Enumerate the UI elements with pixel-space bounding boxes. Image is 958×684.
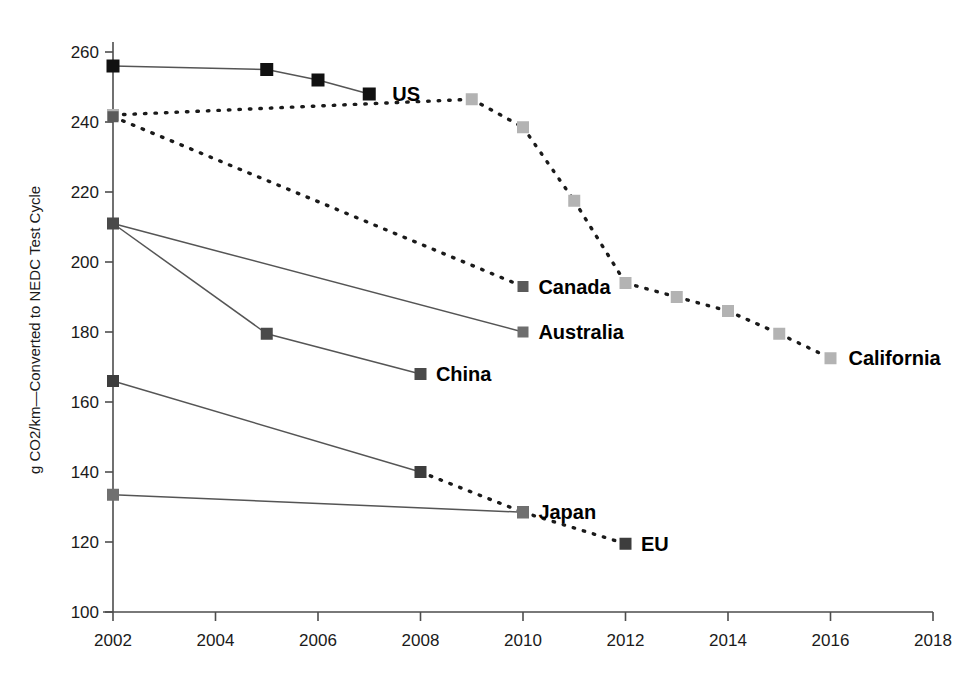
series-marker-california [722,305,734,317]
series-segment-australia [113,224,523,333]
x-axis-tick-label: 2016 [812,631,850,650]
series-marker-canada [518,281,529,292]
series-marker-california [620,277,632,289]
series-marker-us [260,63,273,76]
series-label-japan: Japan [538,501,596,523]
x-axis-tick-label: 2010 [504,631,542,650]
y-axis-tick-label: 180 [71,323,99,342]
series-segment-us [318,80,369,94]
series-marker-california [773,328,785,340]
series-marker-california [568,195,580,207]
series-marker-us [312,74,325,87]
series-marker-australia [518,327,529,338]
x-axis-tick-label: 2002 [94,631,132,650]
x-axis-tick-label: 2004 [197,631,235,650]
y-axis-title: g CO2/km—Converted to NEDC Test Cycle [26,186,43,474]
series-marker-canada [108,111,119,122]
series-marker-california [825,352,837,364]
series-marker-eu [415,466,427,478]
x-axis-tick-label: 2006 [299,631,337,650]
y-axis-tick-label: 220 [71,183,99,202]
x-axis-tick-label: 2018 [914,631,952,650]
series-segment-california [728,311,779,334]
y-axis-tick-label: 200 [71,253,99,272]
y-axis-tick-label: 260 [71,43,99,62]
series-marker-japan [517,506,529,518]
series-segment-us [113,66,267,70]
series-label-us: US [392,83,420,105]
series-segment-california [779,334,830,359]
series-lines [113,66,831,544]
series-label-china: China [436,363,492,385]
x-axis-tick-label: 2014 [709,631,747,650]
series-marker-china [415,368,427,380]
x-axis: 200220042006200820102012201420162018 [94,612,952,650]
x-axis-tick-label: 2008 [402,631,440,650]
series-segment-china [113,224,267,334]
series-segment-california [523,127,574,201]
series-marker-china [107,218,119,230]
y-axis-title-text: g CO2/km—Converted to NEDC Test Cycle [26,186,43,474]
series-segment-us [267,70,318,81]
chart-plot-area: 100120140160180200220240260 200220042006… [0,0,958,684]
series-marker-japan [107,489,119,501]
y-axis-tick-label: 100 [71,603,99,622]
series-segment-china [267,334,421,374]
y-axis-tick-label: 120 [71,533,99,552]
series-marker-california [517,121,529,133]
series-marker-us [107,60,120,73]
series-segment-canada [113,117,523,287]
series-segment-california [626,283,677,297]
series-segment-california [574,201,625,283]
series-marker-us [363,88,376,101]
series-marker-california [671,291,683,303]
y-axis-tick-label: 240 [71,113,99,132]
series-segment-california [677,297,728,311]
series-segment-california [472,99,523,127]
series-label-eu: EU [641,533,669,555]
series-segment-japan [113,495,523,513]
series-marker-california [466,93,478,105]
series-label-california: California [848,347,941,369]
y-axis: 100120140160180200220240260 [71,42,113,622]
series-label-australia: Australia [538,321,624,343]
series-label-canada: Canada [538,276,611,298]
chart-figure: 100120140160180200220240260 200220042006… [0,0,958,684]
y-axis-tick-label: 140 [71,463,99,482]
y-axis-tick-label: 160 [71,393,99,412]
x-axis-tick-label: 2012 [607,631,645,650]
series-marker-china [261,328,273,340]
series-marker-eu [107,375,119,387]
series-segment-eu [421,472,524,512]
series-markers [107,60,837,550]
series-marker-eu [620,538,632,550]
series-segment-eu [113,381,421,472]
